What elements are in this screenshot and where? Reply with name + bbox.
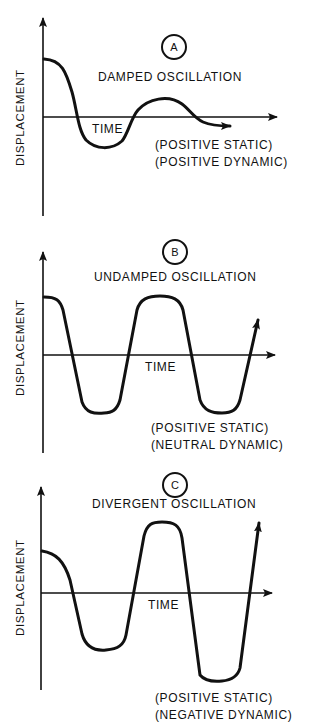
- panel-b-note-line2: (NEUTRAL DYNAMIC): [151, 437, 283, 454]
- panel-b-note: (POSITIVE STATIC) (NEUTRAL DYNAMIC): [151, 420, 283, 454]
- panel-b-badge: B: [162, 239, 188, 265]
- panel-c-x-label: TIME: [148, 598, 179, 612]
- panel-b-x-label: TIME: [145, 360, 176, 374]
- panel-b-note-line1: (POSITIVE STATIC): [151, 420, 283, 437]
- panel-c-note-line1: (POSITIVE STATIC): [155, 690, 292, 707]
- panel-a-badge: A: [161, 34, 187, 60]
- panel-c-badge: C: [162, 472, 188, 498]
- panel-a-note: (POSITIVE STATIC) (POSITIVE DYNAMIC): [155, 137, 288, 171]
- panel-c-note-line2: (NEGATIVE DYNAMIC): [155, 707, 292, 724]
- panel-b-title: UNDAMPED OSCILLATION: [94, 270, 256, 284]
- panel-a-title: DAMPED OSCILLATION: [98, 70, 242, 84]
- panel-a-x-label: TIME: [92, 122, 123, 136]
- panel-a-note-line1: (POSITIVE STATIC): [155, 137, 288, 154]
- panel-c-title: DIVERGENT OSCILLATION: [92, 497, 256, 511]
- panel-c-note: (POSITIVE STATIC) (NEGATIVE DYNAMIC): [155, 690, 292, 724]
- panel-c-y-label: DISPLACEMENT: [14, 539, 26, 636]
- panel-a-note-line2: (POSITIVE DYNAMIC): [155, 154, 288, 171]
- panel-b-y-label: DISPLACEMENT: [14, 299, 26, 396]
- panel-a-y-label: DISPLACEMENT: [14, 69, 26, 166]
